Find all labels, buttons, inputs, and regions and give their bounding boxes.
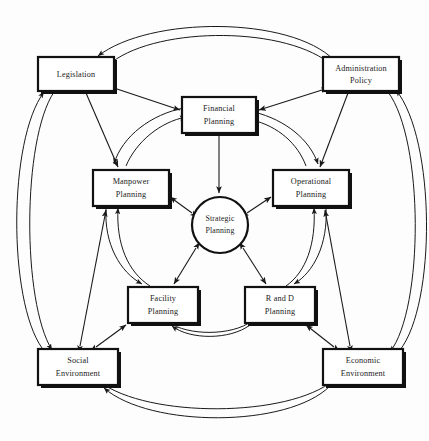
spoke-strategic-manpower xyxy=(170,197,192,213)
node-r-and-d-planning[interactable]: R and D Planning xyxy=(245,287,318,326)
node-social-environment-label-1: Social xyxy=(67,356,89,365)
node-economic-environment[interactable]: Economic Environment xyxy=(323,349,406,388)
arc-admin-to-economic-outer xyxy=(388,92,415,352)
node-legislation[interactable]: Legislation xyxy=(38,57,117,94)
node-manpower-planning-label-1: Manpower xyxy=(113,177,150,186)
node-financial-planning-label-2: Planning xyxy=(204,117,234,126)
strategic-planning-diagram: Legislation Administration Policy Econom… xyxy=(0,0,429,441)
node-operational-planning[interactable]: Operational Planning xyxy=(273,170,352,209)
node-strategic-planning[interactable]: Strategic Planning xyxy=(192,197,248,253)
node-administration-policy-label-1: Administration xyxy=(335,64,387,73)
node-strategic-planning-label-1: Strategic xyxy=(205,214,234,223)
link-legislation-manpower xyxy=(86,93,118,167)
arc-financial-to-operational xyxy=(254,112,318,164)
arc-facility-to-manpower xyxy=(118,208,150,286)
node-r-and-d-planning-label-2: Planning xyxy=(265,307,295,316)
link-admin-operational xyxy=(320,93,348,167)
spoke-strategic-rd xyxy=(243,248,266,284)
link-admin-financial xyxy=(259,90,322,110)
node-social-environment[interactable]: Social Environment xyxy=(38,349,121,388)
node-financial-planning-label-1: Financial xyxy=(203,104,235,113)
arc-manpower-to-facility xyxy=(106,208,142,284)
arc-rd-to-facility xyxy=(172,325,250,336)
arc-economic-to-admin-outer xyxy=(396,90,427,350)
arc-admin-to-legislation-outer xyxy=(98,26,334,60)
arc-manpower-to-financial xyxy=(126,117,186,166)
arc-operational-to-financial xyxy=(252,120,306,166)
node-r-and-d-planning-label-1: R and D xyxy=(266,294,294,303)
node-strategic-planning-label-2: Planning xyxy=(206,226,235,235)
arc-economic-to-social-outer xyxy=(104,386,330,418)
link-social-manpower xyxy=(80,210,106,346)
arc-social-to-legislation-outer xyxy=(17,92,44,348)
node-administration-policy[interactable]: Administration Policy xyxy=(323,57,402,94)
node-social-environment-label-2: Environment xyxy=(56,369,101,378)
node-economic-environment-label-1: Economic xyxy=(346,356,381,365)
spoke-strategic-operational xyxy=(247,197,271,213)
node-manpower-planning-label-2: Planning xyxy=(116,190,146,199)
link-legislation-financial xyxy=(114,88,180,110)
node-operational-planning-label-1: Operational xyxy=(291,177,332,186)
node-legislation-label: Legislation xyxy=(57,70,96,79)
node-operational-planning-label-2: Planning xyxy=(296,190,326,199)
spoke-strategic-facility xyxy=(174,248,196,284)
arc-legislation-to-social-outer xyxy=(30,92,54,350)
node-facility-planning-label-2: Planning xyxy=(148,307,178,316)
arc-financial-to-manpower xyxy=(114,108,184,164)
arc-rd-to-operational xyxy=(286,208,314,286)
node-administration-policy-label-2: Policy xyxy=(350,76,373,85)
link-social-facility xyxy=(96,325,126,347)
link-economic-operational xyxy=(325,210,350,346)
diagram-canvas: Legislation Administration Policy Econom… xyxy=(0,0,429,441)
link-economic-rd xyxy=(306,325,334,347)
node-economic-environment-label-2: Environment xyxy=(341,369,386,378)
node-facility-planning-label-1: Facility xyxy=(150,294,177,303)
node-financial-planning[interactable]: Financial Planning xyxy=(182,97,259,136)
node-facility-planning[interactable]: Facility Planning xyxy=(128,287,201,326)
node-manpower-planning[interactable]: Manpower Planning xyxy=(93,170,172,209)
